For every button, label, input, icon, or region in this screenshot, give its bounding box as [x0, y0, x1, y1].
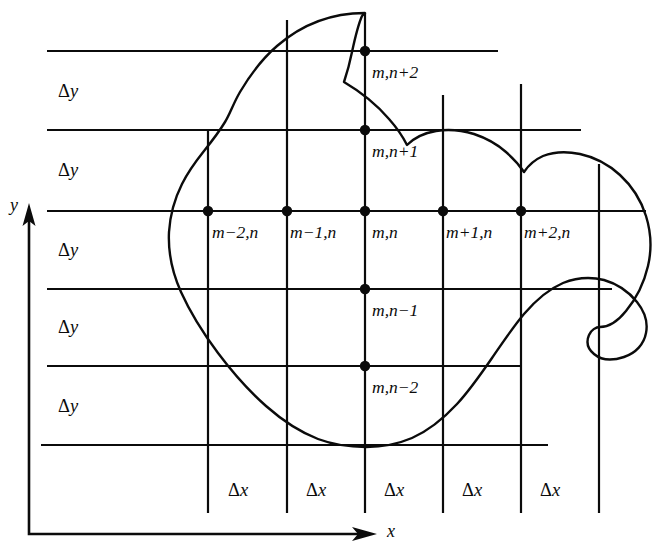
node-dot-m-n-plus-1	[360, 125, 370, 135]
delta-y-label-4: Δy	[58, 318, 78, 337]
node-dot-m-minus-2-n	[203, 206, 213, 216]
node-label-m-n: m,n	[372, 224, 398, 242]
node-label-m-n-plus-1: m,n+1	[372, 143, 418, 161]
grid-vertical-lines	[208, 13, 599, 513]
node-label-m-n-minus-1: m,n−1	[372, 302, 418, 320]
x-axis-label: x	[387, 522, 395, 540]
node-dot-m-n-plus-2	[360, 46, 370, 56]
node-dot-m-plus-1-n	[438, 206, 448, 216]
delta-x-label-1: Δx	[228, 481, 248, 500]
node-label-m-n-plus-2: m,n+2	[372, 64, 418, 82]
finite-difference-grid-figure: m−2,n m−1,n m,n m+1,n m+2,n m,n+2 m,n+1 …	[0, 0, 664, 557]
node-dot-m-minus-1-n	[282, 206, 292, 216]
node-dot-m-plus-2-n	[516, 206, 526, 216]
delta-y-label-3: Δy	[58, 241, 78, 260]
delta-x-label-3: Δx	[384, 481, 404, 500]
node-dot-m-n-minus-2	[360, 361, 370, 371]
node-label-m-plus-2-n: m+2,n	[524, 224, 570, 242]
node-dot-m-n-minus-1	[360, 284, 370, 294]
node-label-m-minus-1-n: m−1,n	[290, 224, 336, 242]
y-axis-label: y	[10, 196, 18, 214]
node-label-m-minus-2-n: m−2,n	[212, 224, 258, 242]
delta-x-label-5: Δx	[540, 481, 560, 500]
delta-y-label-5: Δy	[58, 397, 78, 416]
figure-canvas	[0, 0, 664, 557]
node-label-m-plus-1-n: m+1,n	[446, 224, 492, 242]
node-label-m-n-minus-2: m,n−2	[372, 379, 418, 397]
grid-horizontal-lines	[41, 51, 646, 445]
node-dot-m-n	[360, 206, 370, 216]
delta-x-label-2: Δx	[306, 481, 326, 500]
delta-x-label-4: Δx	[462, 481, 482, 500]
delta-y-label-1: Δy	[58, 82, 78, 101]
delta-y-label-2: Δy	[58, 161, 78, 180]
